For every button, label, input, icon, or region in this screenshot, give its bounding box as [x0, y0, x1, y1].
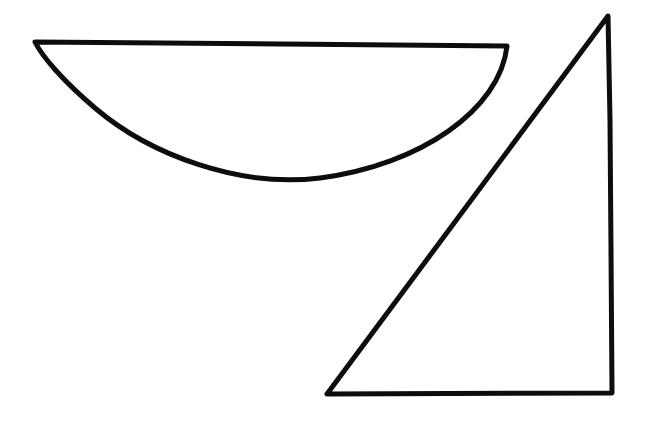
drawing-canvas — [0, 0, 646, 422]
shapes-illustration — [0, 0, 646, 422]
canvas-background — [0, 0, 646, 422]
